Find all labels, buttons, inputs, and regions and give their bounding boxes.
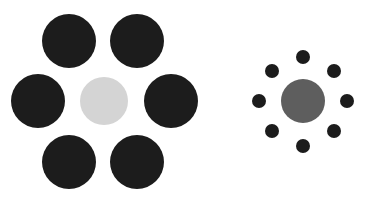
right-circle-group <box>252 50 354 153</box>
left-circle-group <box>11 14 198 189</box>
right-surround-circle <box>327 124 341 138</box>
left-surround-circle <box>110 14 164 68</box>
right-surround-circle <box>340 94 354 108</box>
left-surround-circle <box>11 74 65 128</box>
right-surround-circle <box>265 64 279 78</box>
left-surround-circle <box>110 135 164 189</box>
right-surround-circle <box>296 50 310 64</box>
illusion-canvas <box>0 0 365 202</box>
left-surround-circle <box>42 14 96 68</box>
left-center-circle <box>80 77 128 125</box>
left-surround-circle <box>144 74 198 128</box>
right-surround-circle <box>327 64 341 78</box>
right-center-circle <box>281 79 325 123</box>
illusion-figure <box>0 0 365 202</box>
left-surround-circle <box>42 135 96 189</box>
right-surround-circle <box>296 139 310 153</box>
right-surround-circle <box>265 124 279 138</box>
right-surround-circle <box>252 94 266 108</box>
